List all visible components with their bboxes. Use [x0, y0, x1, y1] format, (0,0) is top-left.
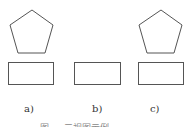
rectangle-c: [139, 63, 184, 85]
label-a: a): [24, 103, 34, 114]
pentagon-c: [139, 10, 182, 53]
pentagon-a: [10, 10, 53, 53]
label-c: c): [150, 103, 160, 114]
label-b: b): [92, 103, 102, 114]
figure-caption: 图 — 三视图示例: [40, 121, 109, 127]
rectangle-a: [9, 63, 54, 85]
rectangle-b: [75, 63, 121, 85]
